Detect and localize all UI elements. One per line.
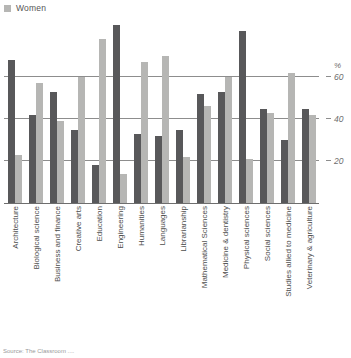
bar-group bbox=[88, 14, 109, 203]
bar-men bbox=[218, 92, 225, 203]
chart-legend: Women bbox=[4, 2, 46, 14]
bar-women bbox=[288, 73, 295, 203]
x-axis-label-cell: Business and finance bbox=[46, 206, 67, 336]
x-axis-tick-label: Business and finance bbox=[52, 206, 61, 282]
x-axis-line bbox=[4, 203, 319, 204]
x-axis-label-cell: Biological science bbox=[25, 206, 46, 336]
bar-women bbox=[99, 39, 106, 203]
bar-women bbox=[225, 77, 232, 203]
bar-group bbox=[4, 14, 25, 203]
bar-women bbox=[36, 83, 43, 203]
bar-women bbox=[15, 155, 22, 203]
x-axis-label-cell: Education bbox=[88, 206, 109, 336]
bar-women bbox=[309, 115, 316, 203]
bar-men bbox=[260, 109, 267, 204]
legend-label-women: Women bbox=[16, 4, 46, 13]
x-axis-label-cell: Physical sciences bbox=[235, 206, 256, 336]
x-axis-tick-label: Engineering bbox=[115, 206, 124, 249]
bar-men bbox=[176, 130, 183, 204]
x-axis-label-cell: Studies allied to medicine bbox=[277, 206, 298, 336]
bar-group bbox=[193, 14, 214, 203]
x-axis-label-cell: Creative arts bbox=[67, 206, 88, 336]
bar-men bbox=[8, 60, 15, 203]
x-axis-tick-label: Social sciences bbox=[262, 206, 271, 261]
bar-chart: Women % 604020 ArchitectureBiological sc… bbox=[0, 0, 351, 358]
y-axis-tick-label: 20 bbox=[334, 157, 343, 166]
bar-women bbox=[141, 62, 148, 203]
x-axis-label-cell: Engineering bbox=[109, 206, 130, 336]
x-axis-label-cell: Librarianship bbox=[172, 206, 193, 336]
bar-men bbox=[134, 134, 141, 203]
bar-men bbox=[197, 94, 204, 203]
bar-women bbox=[267, 113, 274, 203]
y-axis: % 604020 bbox=[326, 14, 351, 203]
bar-group bbox=[277, 14, 298, 203]
bar-women bbox=[183, 157, 190, 203]
x-axis-label-cell: Social sciences bbox=[256, 206, 277, 336]
x-axis-tick-label: Creative arts bbox=[73, 206, 82, 251]
y-axis-tick-mark bbox=[326, 160, 331, 161]
x-axis-tick-label: Mathematical Sciences bbox=[199, 206, 208, 288]
bar-men bbox=[302, 109, 309, 204]
x-axis-label-cell: Medicine & dentistry bbox=[214, 206, 235, 336]
bar-group bbox=[67, 14, 88, 203]
bar-group bbox=[130, 14, 151, 203]
bar-group bbox=[298, 14, 319, 203]
bar-men bbox=[29, 115, 36, 203]
y-axis-tick-mark bbox=[326, 76, 331, 77]
bar-group bbox=[214, 14, 235, 203]
x-axis-label-cell: Veterinary & agriculture bbox=[298, 206, 319, 336]
bar-women bbox=[246, 159, 253, 203]
x-axis-tick-label: Librarianship bbox=[178, 206, 187, 252]
x-axis-tick-label: Studies allied to medicine bbox=[283, 206, 292, 297]
x-axis-labels: ArchitectureBiological scienceBusiness a… bbox=[4, 206, 319, 336]
bar-groups bbox=[4, 14, 319, 203]
x-axis-label-cell: Mathematical Sciences bbox=[193, 206, 214, 336]
bar-group bbox=[235, 14, 256, 203]
x-axis-tick-label: Medicine & dentistry bbox=[220, 206, 229, 278]
bar-men bbox=[50, 92, 57, 203]
y-axis-tick-label: 40 bbox=[334, 115, 343, 124]
bar-group bbox=[25, 14, 46, 203]
x-axis-tick-label: Education bbox=[94, 206, 103, 242]
bar-group bbox=[109, 14, 130, 203]
source-note: Source: The Classroom .... bbox=[3, 348, 203, 358]
bar-group bbox=[151, 14, 172, 203]
y-axis-tick-label: 60 bbox=[334, 73, 343, 82]
y-axis-tick-mark bbox=[326, 118, 331, 119]
bar-women bbox=[57, 121, 64, 203]
bar-women bbox=[78, 77, 85, 203]
bar-men bbox=[92, 165, 99, 203]
legend-swatch-women bbox=[4, 5, 11, 12]
x-axis-tick-label: Humanities bbox=[136, 206, 145, 246]
bar-group bbox=[46, 14, 67, 203]
bar-men bbox=[113, 25, 120, 204]
bar-group bbox=[172, 14, 193, 203]
plot-area bbox=[4, 14, 319, 203]
x-axis-tick-label: Languages bbox=[157, 206, 166, 246]
x-axis-label-cell: Architecture bbox=[4, 206, 25, 336]
x-axis-tick-label: Biological science bbox=[31, 206, 40, 270]
bar-women bbox=[120, 174, 127, 203]
bar-men bbox=[155, 136, 162, 203]
bar-women bbox=[162, 56, 169, 203]
bar-men bbox=[239, 31, 246, 203]
y-axis-unit-label: % bbox=[334, 61, 341, 70]
x-axis-tick-label: Architecture bbox=[10, 206, 19, 249]
x-axis-label-cell: Humanities bbox=[130, 206, 151, 336]
bar-women bbox=[204, 106, 211, 203]
bar-group bbox=[256, 14, 277, 203]
bar-men bbox=[281, 140, 288, 203]
x-axis-tick-label: Veterinary & agriculture bbox=[304, 206, 313, 289]
x-axis-label-cell: Languages bbox=[151, 206, 172, 336]
bar-men bbox=[71, 130, 78, 204]
x-axis-tick-label: Physical sciences bbox=[241, 206, 250, 269]
